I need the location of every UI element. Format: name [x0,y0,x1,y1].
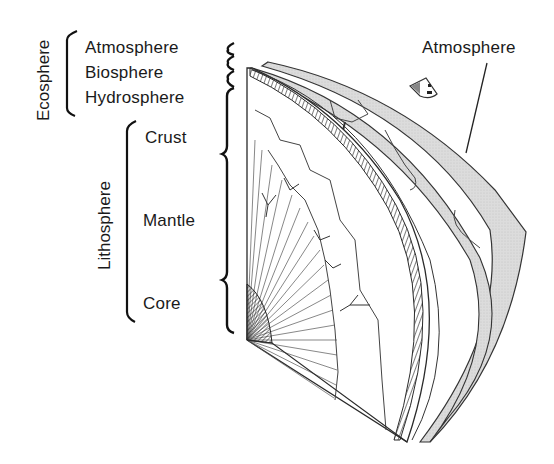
label-atmosphere-callout: Atmosphere [422,39,516,56]
earth-cutaway-illustration [0,0,554,464]
layer-brackets [222,43,234,333]
ecosphere-group-label: Ecosphere [35,40,52,121]
satellite-icon [410,78,437,98]
lithosphere-group-label: Lithosphere [96,181,113,270]
label-atmosphere: Atmosphere [85,39,179,56]
label-core: Core [143,295,181,312]
lithosphere-bracket [127,121,136,322]
atmosphere-callout-line [466,63,487,153]
label-hydrosphere: Hydrosphere [85,89,185,106]
label-mantle: Mantle [143,212,195,229]
label-crust: Crust [145,129,187,146]
label-biosphere: Biosphere [85,64,163,81]
ecosphere-bracket [67,31,77,116]
